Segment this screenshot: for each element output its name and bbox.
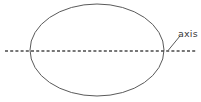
ellipse-outline: [30, 4, 164, 96]
ellipse-axis-diagram: axis: [0, 0, 201, 102]
diagram-canvas: axis: [0, 0, 201, 102]
axis-label: axis: [178, 28, 198, 39]
